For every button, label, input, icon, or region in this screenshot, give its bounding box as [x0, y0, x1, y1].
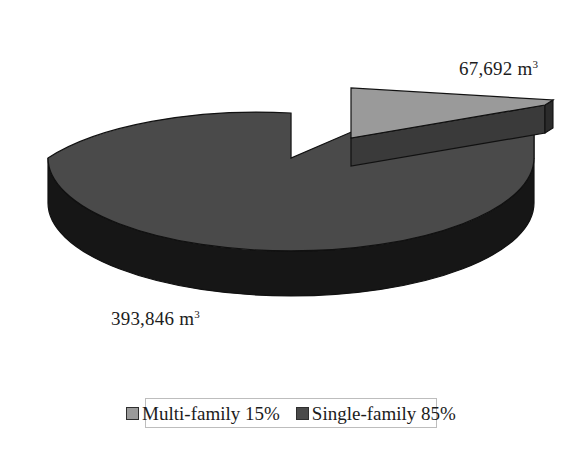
legend-item-single-family[interactable]: Single-family 85% [296, 404, 456, 423]
legend-swatch-single-family [296, 407, 309, 420]
multi-family-unit-wrap: m3 [517, 58, 538, 79]
legend-item-multi-family[interactable]: Multi-family 15% [126, 404, 280, 423]
single-family-value: 393,846 [111, 308, 174, 329]
pie-chart-figure: 67,692m3 393,846m3 Multi-family 15% Sing… [0, 0, 577, 459]
legend-swatch-multi-family [126, 407, 139, 420]
single-family-unit: m [179, 308, 194, 329]
single-family-exponent: 3 [194, 308, 200, 320]
data-label-multi-family: 67,692m3 [459, 58, 538, 80]
legend-label-single-family: Single-family 85% [312, 404, 456, 423]
data-label-single-family: 393,846m3 [111, 308, 200, 330]
chart-legend: Multi-family 15% Single-family 85% [145, 398, 437, 428]
multi-family-unit: m [517, 58, 532, 79]
pie-chart-svg [0, 0, 577, 380]
multi-family-exponent: 3 [532, 58, 538, 70]
chart-plot-area: 67,692m3 393,846m3 [0, 0, 577, 380]
legend-label-multi-family: Multi-family 15% [142, 404, 280, 423]
multi-family-value: 67,692 [459, 58, 512, 79]
single-family-unit-wrap: m3 [179, 308, 200, 329]
